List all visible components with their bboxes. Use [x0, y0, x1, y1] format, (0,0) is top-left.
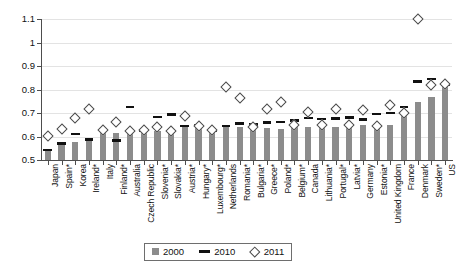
x-axis-label: Luxembourg* — [216, 164, 225, 214]
marker-2011 — [385, 100, 396, 111]
marker-2011 — [426, 79, 437, 90]
legend-dash-icon — [199, 250, 210, 253]
x-axis-label: Australia — [133, 164, 142, 197]
bar-2000 — [291, 125, 297, 160]
x-axis-label: Italy — [106, 164, 115, 179]
marker-2011 — [234, 93, 245, 104]
x-axis-label: Belgium* — [298, 164, 307, 198]
bar-2000 — [278, 129, 284, 160]
marker-2010 — [180, 125, 189, 128]
x-axis-label: Portugal* — [339, 164, 348, 198]
legend-label: 2011 — [264, 246, 284, 257]
marker-2011 — [261, 103, 272, 114]
marker-2011 — [179, 110, 190, 121]
legend-item: 2010 — [199, 246, 235, 257]
marker-2010 — [413, 80, 422, 83]
x-axis-label: Netherlands — [229, 164, 238, 209]
x-axis-label: France — [407, 164, 416, 190]
bar-2000 — [264, 128, 270, 160]
bar-2000 — [72, 142, 78, 160]
marker-2010 — [71, 133, 80, 136]
x-axis-label: Germany — [366, 164, 375, 199]
x-axis-label: Spain* — [65, 164, 74, 189]
x-axis-label: Austria* — [188, 164, 197, 193]
bar-2000 — [346, 126, 352, 160]
marker-2010 — [126, 106, 135, 109]
bar-2000 — [86, 140, 92, 160]
bar-2000 — [305, 127, 311, 160]
bar-2000 — [237, 127, 243, 160]
marker-2010 — [153, 116, 162, 119]
marker-2010 — [372, 113, 381, 116]
marker-2011 — [70, 112, 81, 123]
x-axis-label: Hungary* — [202, 164, 211, 199]
marker-2010 — [359, 118, 368, 121]
y-tick-label: 1 — [6, 38, 35, 47]
x-axis-label: Sweden* — [435, 164, 444, 198]
y-tick-label: 0.5 — [6, 155, 35, 164]
x-axis-label: Greece* — [270, 164, 279, 195]
chart-legend: 200020102011 — [144, 243, 292, 261]
x-axis-label: Estonia* — [380, 164, 389, 195]
bar-2000 — [182, 126, 188, 160]
marker-2011 — [275, 97, 286, 108]
y-tick-label: 0.9 — [6, 61, 35, 70]
x-axis-label: Romania* — [243, 164, 252, 201]
x-axis-label: Bulgaria* — [257, 164, 266, 198]
marker-2011 — [111, 117, 122, 128]
bar-2000 — [45, 150, 51, 160]
marker-2010 — [112, 139, 121, 142]
marker-2011 — [302, 106, 313, 117]
x-axis-label: Denmark — [421, 164, 430, 198]
x-axis-label: Latvia* — [353, 164, 362, 190]
x-axis-label: Czech Republic — [147, 164, 156, 223]
bar-2000 — [415, 102, 421, 160]
marker-2011 — [330, 104, 341, 115]
marker-2011 — [357, 105, 368, 116]
bar-2000 — [387, 125, 393, 160]
marker-2010 — [345, 116, 354, 119]
bar-2000 — [154, 131, 160, 160]
marker-2011 — [56, 123, 67, 134]
bar-2000 — [360, 125, 366, 160]
plot-area — [41, 19, 452, 160]
x-axis-labels: JapanSpain*KoreaIreland*ItalyFinland*Aus… — [41, 164, 453, 242]
x-axis-label: Slovakia* — [174, 164, 183, 199]
x-axis-label: Ireland* — [92, 164, 101, 193]
bar-2000 — [332, 127, 338, 160]
marker-2011 — [412, 13, 423, 24]
x-axis-label: Korea — [79, 164, 88, 186]
bar-2000 — [58, 144, 64, 160]
marker-2010 — [85, 138, 94, 141]
legend-diamond-icon — [250, 246, 261, 257]
marker-2010 — [276, 121, 285, 124]
legend-label: 2000 — [163, 246, 184, 257]
y-tick-label: 0.7 — [6, 108, 35, 117]
bar-2000 — [319, 126, 325, 160]
y-tick-label: 0.6 — [6, 132, 35, 141]
y-tick-label: 0.8 — [6, 85, 35, 94]
marker-2011 — [42, 130, 53, 141]
bar-2000 — [401, 113, 407, 160]
marker-2010 — [263, 121, 272, 124]
bar-2000 — [442, 87, 448, 160]
x-axis-label: Japan — [51, 164, 60, 187]
x-axis-label: Slovenia* — [161, 164, 170, 199]
x-axis-label: United Kingdom — [394, 164, 403, 224]
marker-2010 — [235, 122, 244, 125]
marker-2011 — [83, 104, 94, 115]
bar-2000 — [113, 133, 119, 160]
marker-2010 — [222, 125, 231, 128]
legend-item: 2011 — [250, 246, 284, 257]
bar-2000 — [223, 126, 229, 160]
x-axis-label: Lithuania* — [325, 164, 334, 201]
x-axis-label: Poland* — [284, 164, 293, 193]
marker-2010 — [167, 113, 176, 116]
legend-label: 2010 — [214, 246, 235, 257]
bar-2000 — [250, 128, 256, 160]
y-tick-label: 1.1 — [6, 14, 35, 23]
bar-2000 — [428, 97, 434, 160]
marker-2010 — [386, 112, 395, 115]
x-axis-label: US — [448, 164, 457, 176]
marker-2011 — [220, 81, 231, 92]
